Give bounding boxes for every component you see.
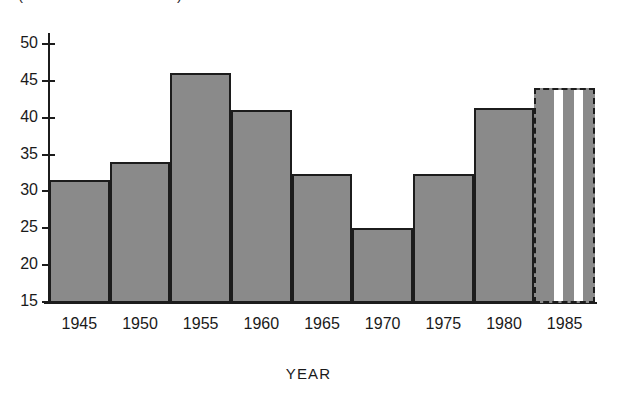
- x-axis-label: 1980: [474, 315, 534, 333]
- x-axis-label: 1970: [353, 315, 413, 333]
- y-axis-label: 20: [2, 256, 38, 272]
- x-axis-label: 1975: [413, 315, 473, 333]
- projection-stripe: [574, 90, 583, 301]
- bar: [231, 110, 292, 303]
- bar-projected: [534, 88, 595, 303]
- x-axis-label: 1965: [292, 315, 352, 333]
- x-axis-label: 1960: [231, 315, 291, 333]
- y-axis-tick: [42, 117, 55, 119]
- bar: [474, 108, 535, 303]
- x-axis-label: 1950: [110, 315, 170, 333]
- y-axis-tick: [42, 43, 55, 45]
- bar: [110, 162, 171, 303]
- y-axis-tick: [42, 154, 55, 156]
- y-axis-tick: [42, 80, 55, 82]
- y-axis-label: 15: [2, 293, 38, 309]
- bar: [413, 174, 474, 303]
- y-axis-label: 25: [2, 219, 38, 235]
- y-axis-label: 50: [2, 35, 38, 51]
- y-axis-label: 35: [2, 146, 38, 162]
- bar: [352, 228, 413, 303]
- bar: [49, 180, 110, 303]
- bar: [170, 73, 231, 303]
- x-axis-label: 1955: [171, 315, 231, 333]
- x-axis-label: 1945: [49, 315, 109, 333]
- projection-stripe: [554, 90, 563, 301]
- y-axis-label: 30: [2, 182, 38, 198]
- x-axis-title: YEAR: [0, 365, 617, 382]
- bar: [292, 174, 353, 303]
- x-axis-label: 1985: [535, 315, 595, 333]
- y-axis-label: 45: [2, 72, 38, 88]
- chart-title: (PERCENT OF TOTAL): [18, 0, 182, 3]
- y-axis-label: 40: [2, 109, 38, 125]
- bar-chart: (PERCENT OF TOTAL) 1520253035404550 1945…: [0, 0, 617, 407]
